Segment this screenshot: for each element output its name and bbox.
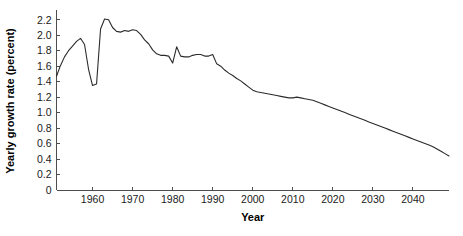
y-tick-label: 0.4 bbox=[37, 153, 52, 165]
growth-rate-line bbox=[57, 19, 450, 156]
x-tick-label: 1960 bbox=[81, 193, 105, 205]
y-tick-label: 0.6 bbox=[37, 137, 52, 149]
x-tick-label: 2040 bbox=[401, 193, 425, 205]
y-tick-label: 1.6 bbox=[37, 60, 52, 72]
y-tick-label: 0.2 bbox=[37, 168, 52, 180]
x-tick-label: 2030 bbox=[361, 193, 385, 205]
x-tick-label: 1980 bbox=[161, 193, 185, 205]
chart-figure: 00.20.40.60.81.01.21.41.61.82.02.2 19601… bbox=[0, 0, 463, 236]
x-tick-label: 2000 bbox=[241, 193, 265, 205]
x-axis-ticks: 196019701980199020002010202020302040 bbox=[81, 187, 425, 206]
y-tick-label: 1.0 bbox=[37, 106, 52, 118]
y-axis-title: Yearly growth rate (percent) bbox=[4, 28, 16, 174]
y-tick-label: 2.0 bbox=[37, 29, 52, 41]
x-tick-label: 2010 bbox=[281, 193, 305, 205]
x-tick-label: 1990 bbox=[201, 193, 225, 205]
y-tick-label: 1.8 bbox=[37, 44, 52, 56]
x-tick-label: 2020 bbox=[321, 193, 345, 205]
y-tick-label: 1.2 bbox=[37, 91, 52, 103]
x-axis-title: Year bbox=[241, 211, 265, 223]
line-chart: 00.20.40.60.81.01.21.41.61.82.02.2 19601… bbox=[0, 0, 463, 236]
y-tick-label: 0.8 bbox=[37, 122, 52, 134]
x-tick-label: 1970 bbox=[121, 193, 145, 205]
y-tick-label: 0 bbox=[46, 184, 52, 196]
y-tick-label: 2.2 bbox=[37, 14, 52, 26]
y-tick-label: 1.4 bbox=[37, 75, 52, 87]
